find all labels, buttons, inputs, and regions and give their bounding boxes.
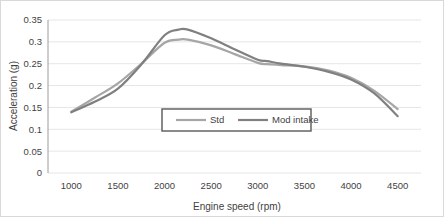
x-axis-tick-label: 3500 xyxy=(294,180,315,191)
y-axis-tick-label: 0.05 xyxy=(24,146,43,157)
x-axis-title: Engine speed (rpm) xyxy=(193,201,281,212)
y-axis-tick-label: 0.25 xyxy=(24,58,43,69)
x-axis-tick-label: 2500 xyxy=(201,180,222,191)
x-axis-tick-label: 3000 xyxy=(247,180,268,191)
chart-legend: StdMod intake xyxy=(162,109,318,131)
x-axis-tick-label: 1000 xyxy=(61,180,82,191)
legend-label: Mod intake xyxy=(272,114,318,125)
x-axis-tick-label: 4000 xyxy=(340,180,361,191)
y-axis-tick-label: 0.1 xyxy=(29,124,42,135)
y-axis-tick-label: 0.15 xyxy=(24,102,43,113)
y-axis-tick-labels: 00.050.10.150.20.250.30.35 xyxy=(24,14,43,178)
y-axis-tick-label: 0.35 xyxy=(24,14,43,25)
y-axis-tick-label: 0.3 xyxy=(29,36,42,47)
y-axis-tick-label: 0 xyxy=(37,167,42,178)
x-axis-tick-labels: 10001500200025003000350040004500 xyxy=(61,180,409,191)
x-axis-tick-label: 2000 xyxy=(154,180,175,191)
line-chart: 00.050.10.150.20.250.30.35 1000150020002… xyxy=(1,1,444,217)
y-axis-tick-label: 0.2 xyxy=(29,80,42,91)
y-axis-title: Acceleration (g) xyxy=(8,61,19,131)
chart-container: 00.050.10.150.20.250.30.35 1000150020002… xyxy=(0,0,444,217)
x-axis-tick-label: 4500 xyxy=(387,180,408,191)
x-axis-tick-label: 1500 xyxy=(107,180,128,191)
legend-label: Std xyxy=(210,114,224,125)
